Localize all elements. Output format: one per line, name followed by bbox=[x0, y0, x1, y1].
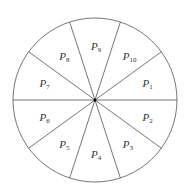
sector-label-p3: P3 bbox=[122, 138, 134, 152]
sector-label-p8: P8 bbox=[58, 50, 70, 64]
sector-divider-line bbox=[70, 100, 95, 178]
sector-label-p4: P4 bbox=[90, 148, 102, 162]
sector-label-p9: P9 bbox=[90, 40, 102, 54]
sector-divider-line bbox=[95, 22, 120, 100]
sector-label-p10: P10 bbox=[122, 50, 137, 64]
sector-label-p7: P7 bbox=[39, 77, 51, 91]
sector-label-p5: P5 bbox=[58, 138, 70, 152]
sector-label-p6: P6 bbox=[39, 111, 51, 125]
sector-divider-line bbox=[70, 22, 95, 100]
sector-label-p2: P2 bbox=[141, 111, 153, 125]
sector-label-p1: P1 bbox=[141, 77, 153, 91]
sector-divider-line bbox=[95, 100, 120, 178]
center-point bbox=[94, 99, 97, 102]
circle-sector-diagram: P1P2P3P4P5P6P7P8P9P10 bbox=[0, 0, 191, 192]
